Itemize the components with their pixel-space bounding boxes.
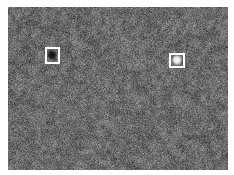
annotation-box-dark-feature — [45, 47, 60, 64]
grayscale-texture-image — [8, 7, 228, 170]
texture-noise-canvas — [8, 7, 228, 170]
figure-root — [0, 0, 234, 175]
bright-blob-marker — [171, 55, 183, 66]
dark-blob-marker — [47, 49, 58, 62]
annotation-box-bright-feature — [169, 53, 185, 68]
